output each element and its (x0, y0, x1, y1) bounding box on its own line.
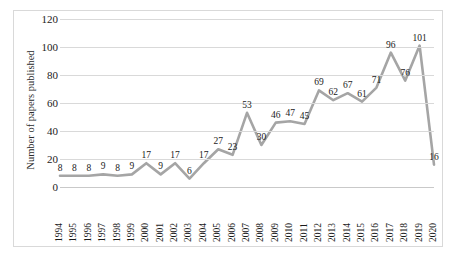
x-tick-label: 2020 (428, 223, 438, 242)
data-label: 17 (142, 150, 152, 160)
y-tick-label: 120 (18, 14, 58, 24)
data-label: 8 (58, 163, 63, 173)
data-label: 67 (343, 80, 353, 90)
data-label: 8 (115, 163, 120, 173)
data-label: 101 (412, 33, 426, 43)
y-axis-tick-labels: 020406080100120 (14, 11, 58, 248)
data-label: 9 (158, 161, 163, 171)
y-tick-label: 20 (18, 154, 58, 164)
x-tick-label: 2003 (183, 223, 193, 242)
x-tick-label: 1995 (68, 223, 78, 242)
x-tick-label: 2011 (299, 223, 309, 242)
data-label: 71 (372, 75, 382, 85)
x-tick-label: 2000 (140, 223, 150, 242)
data-label: 27 (213, 136, 223, 146)
data-label: 61 (357, 89, 367, 99)
y-tick-label: 0 (18, 182, 58, 192)
gridline (60, 159, 434, 160)
data-label: 30 (257, 132, 267, 142)
data-label: 16 (429, 152, 439, 162)
data-label: 8 (86, 163, 91, 173)
x-tick-label: 2016 (370, 223, 380, 242)
x-tick-label: 1996 (83, 223, 93, 242)
data-label: 53 (242, 100, 252, 110)
x-tick-label: 1994 (54, 223, 64, 242)
x-tick-label: 2007 (241, 223, 251, 242)
x-axis-tick-labels: 1994199519961997199819992000200120022003… (60, 186, 434, 242)
data-label: 6 (187, 166, 192, 176)
x-tick-label: 2018 (399, 223, 409, 242)
x-tick-label: 2004 (198, 223, 208, 242)
x-tick-label: 2008 (255, 223, 265, 242)
plot-area: 8889891791761727235330464745696267617196… (60, 19, 434, 187)
gridline (60, 47, 434, 48)
chart-figure: Number of papers published 0204060801001… (13, 10, 443, 247)
data-label: 8 (72, 163, 77, 173)
y-tick-label: 40 (18, 126, 58, 136)
x-tick-label: 2005 (212, 223, 222, 242)
x-tick-label: 2014 (342, 223, 352, 242)
data-label: 23 (228, 142, 238, 152)
x-tick-label: 2009 (270, 223, 280, 242)
data-label: 17 (170, 150, 180, 160)
x-tick-label: 2015 (356, 223, 366, 242)
data-label: 96 (386, 40, 396, 50)
data-label: 47 (285, 108, 295, 118)
x-tick-label: 1998 (112, 223, 122, 242)
x-tick-label: 2006 (227, 223, 237, 242)
x-tick-label: 2001 (155, 223, 165, 242)
gridline (60, 131, 434, 132)
x-tick-label: 1997 (97, 223, 107, 242)
data-label: 76 (400, 68, 410, 78)
y-tick-label: 60 (18, 98, 58, 108)
x-tick-label: 2013 (327, 223, 337, 242)
data-label: 9 (101, 161, 106, 171)
x-tick-label: 2017 (385, 223, 395, 242)
y-tick-label: 80 (18, 70, 58, 80)
x-tick-label: 2012 (313, 223, 323, 242)
x-tick-label: 1999 (126, 223, 136, 242)
data-label: 17 (199, 150, 209, 160)
data-label: 9 (130, 161, 135, 171)
data-label: 69 (314, 77, 324, 87)
gridline (60, 19, 434, 20)
x-tick-label: 2002 (169, 223, 179, 242)
data-label: 62 (329, 87, 339, 97)
data-label: 46 (271, 110, 281, 120)
x-tick-label: 2019 (414, 223, 424, 242)
x-tick-label: 2010 (284, 223, 294, 242)
data-label: 45 (300, 111, 310, 121)
y-tick-label: 100 (18, 42, 58, 52)
